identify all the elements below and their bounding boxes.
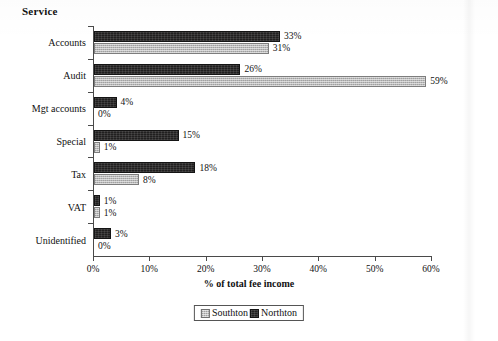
bar-value-label: 33%	[284, 31, 301, 41]
bar-value-label: 15%	[183, 130, 200, 140]
y-axis-tick	[88, 26, 93, 27]
bar-value-label: 0%	[98, 241, 111, 251]
bar-value-label: 0%	[98, 109, 111, 119]
bar-value-label: 4%	[121, 97, 134, 107]
y-axis-tick	[88, 59, 93, 60]
x-axis-tick-label: 30%	[253, 264, 270, 274]
bar-value-label: 18%	[199, 163, 216, 173]
x-axis-tick-label: 60%	[422, 264, 439, 274]
x-axis-tick	[206, 256, 207, 261]
x-axis-tick	[318, 256, 319, 261]
x-axis-tick-label: 40%	[310, 264, 327, 274]
y-axis-category-label: Tax	[71, 168, 86, 179]
x-axis-tick	[93, 256, 94, 261]
x-axis-tick-label: 20%	[197, 264, 214, 274]
x-axis-tick-label: 0%	[87, 264, 100, 274]
y-axis-category-label: Mgt accounts	[32, 103, 86, 114]
x-axis-tick-label: 10%	[141, 264, 158, 274]
bar-value-label: 26%	[244, 64, 261, 74]
bar-value-label: 59%	[430, 76, 447, 86]
bar-value-label: 1%	[104, 196, 117, 206]
bar-southton-tax[interactable]	[94, 174, 139, 185]
y-axis-category-label: Special	[57, 136, 86, 147]
bar-southton-special[interactable]	[94, 142, 100, 153]
y-axis-tick	[88, 92, 93, 93]
legend-item-northton[interactable]: Northton	[249, 308, 298, 318]
bar-value-label: 8%	[143, 175, 156, 185]
legend-swatch-northton-icon	[250, 309, 259, 318]
bar-value-label: 3%	[115, 229, 128, 239]
bar-value-label: 1%	[104, 142, 117, 152]
x-axis-tick-label: 50%	[366, 264, 383, 274]
bar-southton-accounts[interactable]	[94, 43, 269, 54]
x-axis-tick	[375, 256, 376, 261]
y-axis-category-label: Accounts	[48, 37, 86, 48]
bar-northton-vat[interactable]	[94, 195, 100, 206]
y-axis-category-label: VAT	[68, 201, 86, 212]
service-fee-income-bar-chart: Service 0%10%20%30%40%50%60%Accounts33%3…	[0, 0, 498, 341]
y-axis-tick	[88, 190, 93, 191]
chart-title: Service	[22, 5, 58, 17]
plot-area: 0%10%20%30%40%50%60%Accounts33%31%Audit2…	[93, 26, 431, 256]
bar-value-label: 1%	[104, 208, 117, 218]
bar-southton-audit[interactable]	[94, 76, 426, 87]
y-axis-category-label: Audit	[63, 70, 86, 81]
legend-label-northton: Northton	[261, 308, 297, 318]
bar-northton-unidentified[interactable]	[94, 228, 111, 239]
bar-northton-accounts[interactable]	[94, 31, 280, 42]
bar-northton-mgt-accounts[interactable]	[94, 97, 117, 108]
y-axis-tick	[88, 125, 93, 126]
x-axis-tick	[431, 256, 432, 261]
bar-northton-special[interactable]	[94, 130, 179, 141]
legend-label-southton: Southton	[212, 308, 248, 318]
bar-northton-tax[interactable]	[94, 162, 195, 173]
bar-value-label: 31%	[273, 43, 290, 53]
x-axis-tick	[262, 256, 263, 261]
legend-swatch-southton-icon	[201, 309, 210, 318]
bar-southton-vat[interactable]	[94, 207, 100, 218]
legend-item-southton[interactable]: Southton	[200, 308, 249, 318]
y-axis-category-label: Unidentified	[35, 234, 86, 245]
x-axis-title: % of total fee income	[0, 278, 498, 289]
y-axis-tick	[88, 157, 93, 158]
x-axis-tick	[149, 256, 150, 261]
bar-northton-audit[interactable]	[94, 64, 240, 75]
chart-legend: Southton Northton	[194, 305, 304, 321]
y-axis-tick	[88, 223, 93, 224]
